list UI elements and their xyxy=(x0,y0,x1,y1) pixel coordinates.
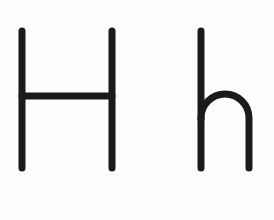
letter-canvas xyxy=(0,0,274,220)
canvas-background xyxy=(0,0,274,220)
letterform-drawing xyxy=(0,0,274,220)
